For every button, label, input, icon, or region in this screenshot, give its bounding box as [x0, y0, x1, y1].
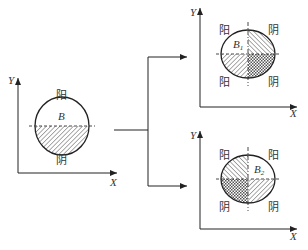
- x-axis-label: X: [109, 176, 118, 188]
- label-lower-right: 阴: [268, 201, 279, 214]
- b1-diagram: Y X 阳 阴 阳 阴 B1: [190, 6, 298, 119]
- label-upper-right: 阳: [268, 149, 279, 162]
- left-diagram: Y X 阳 B 阴: [8, 74, 118, 188]
- x-axis-label: X: [289, 230, 298, 242]
- b2-diagram: Y X 阳 阳 阴 阴 B2: [190, 129, 298, 242]
- y-axis-label: Y: [190, 129, 198, 141]
- yang-label: 阳: [56, 89, 67, 102]
- x-axis-label: X: [289, 107, 298, 119]
- label-upper-left: 阳: [219, 149, 230, 162]
- label-lower-left: 阴: [219, 201, 230, 214]
- label-upper-right: 阴: [268, 24, 279, 37]
- label-lower-left: 阳: [219, 76, 230, 89]
- region-b1-label: B1: [233, 38, 243, 52]
- region-b-label: B: [58, 110, 65, 122]
- y-axis-label: Y: [8, 74, 16, 86]
- label-lower-right: 阴: [268, 76, 279, 89]
- split-connector: [114, 57, 187, 186]
- region-b2-label: B2: [254, 163, 265, 177]
- label-upper-left: 阳: [219, 24, 230, 37]
- yin-label: 阴: [56, 154, 67, 167]
- diagram-canvas: Y X 阳 B 阴 Y X 阳 阴 阳 阴 B1: [0, 0, 308, 250]
- y-axis-label: Y: [190, 6, 198, 18]
